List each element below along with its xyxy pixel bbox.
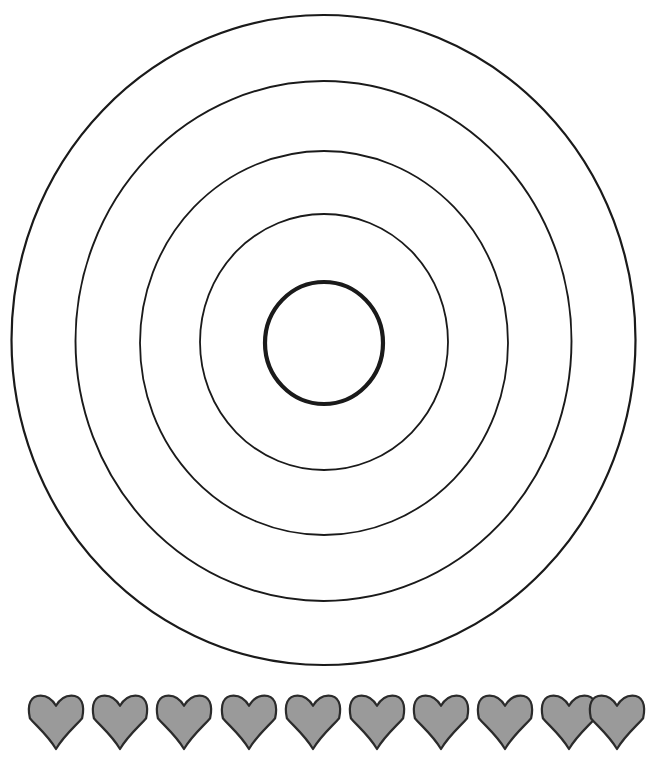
hearts-group — [29, 696, 644, 749]
target-ring-3 — [140, 151, 508, 535]
heart-icon-4 — [222, 696, 276, 749]
rings-group — [12, 15, 636, 665]
heart-icon-7 — [414, 696, 468, 749]
target-worksheet-canvas — [0, 0, 647, 759]
target-ring-2 — [76, 81, 572, 601]
heart-icon-2 — [93, 696, 147, 749]
target-ring-5 — [265, 282, 383, 404]
target-ring-4 — [200, 214, 448, 470]
heart-icon-9 — [542, 696, 596, 749]
heart-icon-5 — [286, 696, 340, 749]
heart-icon-6 — [350, 696, 404, 749]
target-ring-1 — [12, 15, 636, 665]
heart-icon-1 — [29, 696, 83, 749]
hearts-row — [0, 686, 647, 759]
heart-icon-3 — [157, 696, 211, 749]
heart-icon-10 — [590, 696, 644, 749]
heart-icon-8 — [478, 696, 532, 749]
concentric-rings-target — [0, 0, 647, 690]
